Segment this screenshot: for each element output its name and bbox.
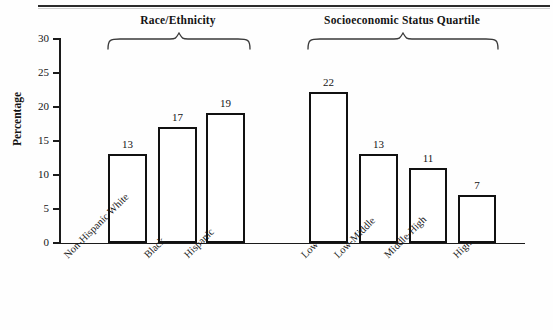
bar-value-low: 22 <box>309 76 348 88</box>
bar-value-high: 7 <box>458 179 496 191</box>
bar-black[interactable] <box>158 127 197 243</box>
x-label-non-hispanic-white-line1: Non-Hispanic <box>62 211 111 260</box>
page-top-rule <box>38 5 550 7</box>
y-tick-label-20-wrap: 20 <box>19 100 49 112</box>
bar-value-hispanic: 19 <box>206 97 245 109</box>
bar-value-middle-high: 11 <box>409 152 447 164</box>
bar-high[interactable] <box>458 195 496 243</box>
y-tick-25 <box>53 72 59 74</box>
y-tick-5 <box>53 208 59 210</box>
bar-value-black: 17 <box>158 111 197 123</box>
chart-figure: Race/Ethnicity Socioeconomic Status Quar… <box>0 0 553 330</box>
y-tick-10 <box>53 174 59 176</box>
y-tick-label-15: 15 <box>21 134 49 146</box>
brace-race-ethnicity <box>106 32 252 54</box>
y-tick-label-5: 5 <box>21 202 49 214</box>
y-tick-label-30: 30 <box>21 32 49 44</box>
y-tick-label-30-wrap: 30 <box>19 32 49 44</box>
bar-hispanic[interactable] <box>206 113 245 243</box>
y-tick-label-0: 0 <box>21 236 49 248</box>
y-tick-20 <box>53 106 59 108</box>
bar-low[interactable] <box>309 92 348 243</box>
y-axis-title: Percentage <box>11 80 23 158</box>
bar-value-non-hispanic-white: 13 <box>108 138 147 150</box>
y-tick-label-10: 10 <box>21 168 49 180</box>
y-tick-label-10-wrap: 10 <box>19 168 49 180</box>
y-tick-label-25-wrap: 25 <box>19 66 49 78</box>
y-tick-0 <box>53 242 59 244</box>
page-top-rule-shadow <box>38 8 550 9</box>
y-tick-label-20: 20 <box>21 100 49 112</box>
y-tick-label-0-wrap: 0 <box>19 236 49 248</box>
group-title-race-ethnicity: Race/Ethnicity <box>108 14 248 26</box>
brace-socioeconomic-status <box>306 32 500 54</box>
y-tick-30 <box>53 38 59 40</box>
bar-value-low-middle: 13 <box>359 138 398 150</box>
y-tick-label-5-wrap: 5 <box>19 202 49 214</box>
group-title-socioeconomic-status: Socioeconomic Status Quartile <box>308 14 496 26</box>
y-tick-label-15-wrap: 15 <box>19 134 49 146</box>
y-tick-label-25: 25 <box>21 66 49 78</box>
y-axis-line <box>59 38 61 244</box>
y-tick-15 <box>53 140 59 142</box>
